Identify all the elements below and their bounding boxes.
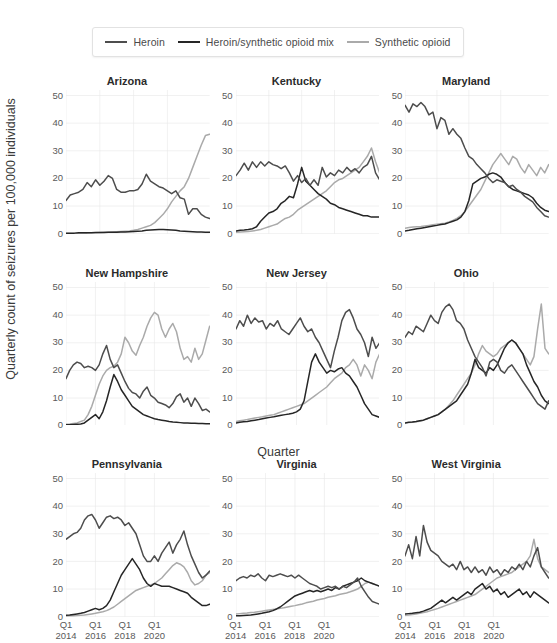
plot-area-virginia (236, 473, 380, 617)
y-tick-label: 0 (227, 421, 232, 431)
panel-title-maryland: Maryland (383, 72, 549, 90)
y-tick-label: 10 (52, 585, 63, 595)
series-line-mix (236, 167, 380, 231)
x-axis-title: Quarter (0, 445, 557, 459)
x-tick-label: Q12016 (85, 619, 106, 641)
x-tick-quarter: Q1 (313, 619, 334, 630)
y-tick-label: 50 (222, 474, 233, 484)
series-line-heroin (236, 309, 380, 367)
x-tick-year: 2014 (225, 630, 246, 641)
y-tick-label: 20 (222, 365, 233, 375)
legend-swatch-heroin-synthetic-mix (178, 41, 200, 43)
y-tick-label: 0 (58, 229, 63, 239)
x-tick-year: 2020 (313, 630, 334, 641)
y-tick-label: 0 (227, 229, 232, 239)
series-line-synthetic (405, 540, 549, 616)
plot-area-arizona (66, 90, 210, 234)
x-tick-quarter: Q1 (454, 619, 475, 630)
y-tick-label: 10 (392, 201, 403, 211)
x-tick-quarter: Q1 (144, 619, 165, 630)
series-line-mix (405, 340, 549, 423)
y-tick-label: 20 (392, 557, 403, 567)
series-line-mix (405, 173, 549, 231)
panel-body-kentucky: 01020304050 (214, 90, 380, 234)
y-tick-label: 50 (392, 282, 403, 292)
y-tick-label: 20 (392, 174, 403, 184)
y-axis-ticks-new-hampshire: 01020304050 (44, 282, 66, 426)
panel-title-arizona: Arizona (44, 72, 210, 90)
y-tick-label: 20 (52, 557, 63, 567)
y-tick-label: 30 (392, 146, 403, 156)
x-tick-quarter: Q1 (85, 619, 106, 630)
y-tick-label: 40 (52, 502, 63, 512)
panel-virginia: Virginia01020304050Q12014Q12016Q12018Q12… (214, 455, 380, 643)
x-tick-label: Q12020 (483, 619, 504, 641)
y-tick-label: 10 (222, 201, 233, 211)
y-tick-label: 40 (222, 310, 233, 320)
legend-item-heroin: Heroin (105, 36, 165, 48)
x-tick-year: 2016 (255, 630, 276, 641)
y-tick-label: 10 (222, 393, 233, 403)
y-tick-label: 50 (392, 474, 403, 484)
panel-grid: Arizona01020304050Q12014Q12016Q12018Q120… (44, 72, 549, 432)
y-tick-label: 10 (222, 585, 233, 595)
panel-new-jersey: New Jersey01020304050Q12014Q12016Q12018Q… (214, 264, 380, 456)
panel-new-hampshire: New Hampshire01020304050Q12014Q12016Q120… (44, 264, 210, 456)
series-line-heroin (66, 174, 210, 218)
series-line-synthetic (66, 563, 210, 616)
y-tick-label: 20 (222, 557, 233, 567)
x-tick-label: Q12014 (395, 619, 416, 641)
y-tick-label: 50 (52, 474, 63, 484)
series-line-heroin (405, 102, 549, 217)
series-line-mix (236, 578, 380, 616)
panel-body-west-virginia: 01020304050 (383, 473, 549, 617)
plot-area-west-virginia (405, 473, 549, 617)
y-tick-label: 20 (52, 365, 63, 375)
legend-label-synthetic-opioid: Synthetic opioid (375, 36, 451, 48)
panel-arizona: Arizona01020304050Q12014Q12016Q12018Q120… (44, 72, 210, 264)
panel-body-virginia: 01020304050 (214, 473, 380, 617)
series-line-heroin (236, 156, 380, 185)
y-axis-ticks-new-jersey: 01020304050 (214, 282, 236, 426)
panel-pennsylvania: Pennsylvania01020304050Q12014Q12016Q1201… (44, 455, 210, 643)
series-line-mix (405, 584, 549, 614)
x-tick-year: 2014 (55, 630, 76, 641)
x-tick-year: 2014 (395, 630, 416, 641)
panel-body-ohio: 01020304050 (383, 282, 549, 426)
panel-body-new-hampshire: 01020304050 (44, 282, 210, 426)
x-tick-quarter: Q1 (114, 619, 135, 630)
series-line-mix (236, 354, 380, 423)
panel-body-arizona: 01020304050 (44, 90, 210, 234)
x-axis-ticks-pennsylvania: Q12014Q12016Q12018Q12020 (66, 617, 210, 643)
plot-area-maryland (405, 90, 549, 234)
x-tick-label: Q12016 (424, 619, 445, 641)
panel-body-pennsylvania: 01020304050 (44, 473, 210, 617)
legend-label-heroin: Heroin (133, 36, 165, 48)
y-tick-label: 30 (52, 146, 63, 156)
x-tick-label: Q12018 (454, 619, 475, 641)
panel-body-new-jersey: 01020304050 (214, 282, 380, 426)
plot-area-kentucky (236, 90, 380, 234)
y-tick-label: 20 (222, 174, 233, 184)
y-tick-label: 40 (392, 310, 403, 320)
y-tick-label: 0 (397, 229, 402, 239)
y-tick-label: 0 (397, 421, 402, 431)
y-tick-label: 50 (392, 91, 403, 101)
series-line-heroin (66, 345, 210, 411)
x-tick-label: Q12020 (313, 619, 334, 641)
y-tick-label: 30 (222, 146, 233, 156)
panel-title-kentucky: Kentucky (214, 72, 380, 90)
x-tick-year: 2018 (284, 630, 305, 641)
x-tick-quarter: Q1 (284, 619, 305, 630)
x-tick-label: Q12014 (225, 619, 246, 641)
panel-title-new-hampshire: New Hampshire (44, 264, 210, 282)
plot-area-new-hampshire (66, 282, 210, 426)
panel-title-new-jersey: New Jersey (214, 264, 380, 282)
y-axis-ticks-arizona: 01020304050 (44, 90, 66, 234)
chart-legend: Heroin Heroin/synthetic opioid mix Synth… (92, 27, 464, 57)
y-axis-title: Quarterly count of seizures per 100,000 … (0, 0, 22, 478)
x-tick-label: Q12016 (255, 619, 276, 641)
plot-area-ohio (405, 282, 549, 426)
panel-west-virginia: West Virginia01020304050Q12014Q12016Q120… (383, 455, 549, 643)
